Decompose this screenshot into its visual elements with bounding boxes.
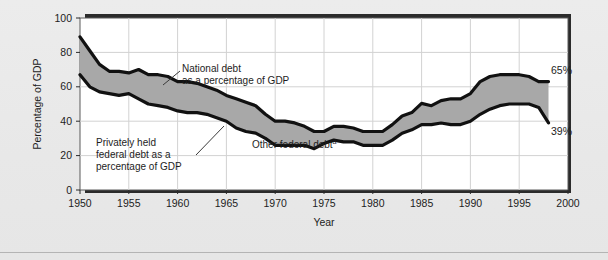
other-federal-debt-label: Other federal debta [252, 138, 337, 150]
x-tick-label: 1990 [459, 197, 483, 209]
x-tick-label: 1965 [215, 197, 239, 209]
y-tick-marks [76, 18, 80, 190]
y-tick-label: 20 [60, 149, 72, 161]
privately-held-annotation-line1: Privately held [96, 137, 156, 148]
x-tick-label: 2000 [556, 197, 580, 209]
figure-container: 0 20 40 60 80 100 1950 1955 1960 1965 19… [0, 0, 608, 260]
national-debt-annotation-line1: National debt [182, 63, 241, 74]
x-tick-label: 1970 [264, 197, 288, 209]
x-tick-label: 1975 [312, 197, 336, 209]
y-tick-label: 0 [66, 184, 72, 196]
privately-held-annotation-line3: percentage of GDP [96, 161, 182, 172]
privately-held-annotation-line2: federal debt as a [96, 149, 171, 160]
x-tick-label: 1980 [361, 197, 385, 209]
y-axis-title: Percentage of GDP [31, 58, 43, 149]
x-tick-label: 1960 [166, 197, 190, 209]
page-bottom-rule [0, 252, 608, 253]
other-federal-debt-superscript: a [333, 138, 337, 145]
x-tick-labels: 1950 1955 1960 1965 1970 1975 1980 1985 … [68, 197, 580, 209]
national-debt-annotation-line2: as a percentage of GDP [182, 75, 290, 86]
y-tick-label: 80 [60, 46, 72, 58]
lower-end-label: 39% [551, 125, 572, 137]
x-tick-label: 1985 [410, 197, 434, 209]
y-tick-label: 100 [54, 12, 72, 24]
other-federal-debt-text: Other federal debt [252, 139, 333, 150]
x-tick-label: 1995 [508, 197, 532, 209]
y-tick-labels: 0 20 40 60 80 100 [54, 12, 72, 196]
y-tick-label: 60 [60, 80, 72, 92]
chart-svg: 0 20 40 60 80 100 1950 1955 1960 1965 19… [0, 0, 608, 260]
x-tick-label: 1955 [117, 197, 141, 209]
x-axis-title: Year [313, 216, 335, 228]
upper-end-label: 65% [551, 64, 572, 76]
x-tick-label: 1950 [68, 197, 92, 209]
y-tick-label: 40 [60, 115, 72, 127]
